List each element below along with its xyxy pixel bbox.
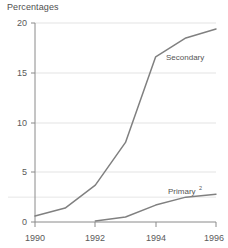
- x-tick-labels: 1990 1992 1994 1996: [25, 233, 224, 243]
- y-tick-label-10: 10: [17, 118, 27, 128]
- gridlines: [8, 23, 216, 197]
- y-tick-label-0: 0: [22, 217, 27, 227]
- chart-container: Percentages 20 15 10 5 0: [0, 0, 228, 248]
- x-axis: [35, 222, 216, 227]
- y-tick-label-20: 20: [17, 18, 27, 28]
- x-tick-label-1996: 1996: [204, 233, 224, 243]
- series-label-primary: Primary: [168, 187, 196, 196]
- y-tick-labels: 20 15 10 5 0: [17, 18, 27, 227]
- y-tick-label-5: 5: [22, 167, 27, 177]
- y-axis: [31, 23, 35, 222]
- x-tick-label-1992: 1992: [85, 233, 105, 243]
- series-line-primary: [95, 194, 216, 221]
- chart-plot: 20 15 10 5 0 1990 1992 1994 1996 Seconda…: [0, 0, 228, 248]
- y-tick-label-15: 15: [17, 68, 27, 78]
- series-label-primary-footnote: 2: [199, 185, 202, 191]
- x-tick-label-1990: 1990: [25, 233, 45, 243]
- series-label-secondary: Secondary: [166, 53, 204, 62]
- x-tick-label-1994: 1994: [146, 233, 166, 243]
